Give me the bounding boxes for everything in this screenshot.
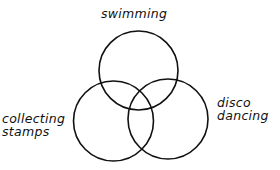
circle-swimming [99,31,178,110]
label-disco-dancing: disco dancing [217,96,269,122]
venn-diagram [0,0,280,170]
label-line: dancing [217,109,269,122]
label-line: stamps [2,125,65,138]
circle-disco-dancing [128,79,208,159]
label-collecting-stamps: collecting stamps [2,112,65,138]
label-swimming: swimming [101,7,167,20]
label-line: swimming [101,7,167,20]
